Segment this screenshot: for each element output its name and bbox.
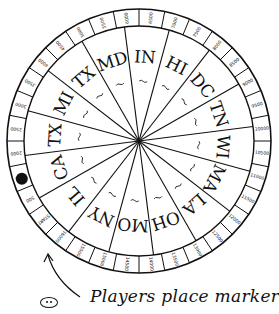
tilde-mark	[80, 156, 84, 164]
rim-value: 9000	[242, 78, 255, 88]
rim-value: 14500	[124, 257, 130, 272]
rim-value: 5000	[76, 26, 86, 39]
tilde-mark	[162, 85, 170, 90]
arrow	[48, 255, 80, 297]
rim-divider	[88, 19, 95, 35]
tilde-mark	[193, 118, 197, 126]
rim-divider	[183, 19, 190, 35]
rim-value: 14000	[148, 257, 154, 272]
tilde-mark	[131, 199, 139, 202]
rim-divider	[252, 115, 269, 118]
rim-value: 7000	[171, 16, 179, 29]
sector-label: OH	[149, 207, 183, 235]
sector-label: IL	[62, 183, 89, 210]
sector-label: MI	[49, 88, 78, 119]
rim-divider	[252, 163, 269, 166]
tilde-mark	[154, 195, 162, 199]
rim-divider	[235, 68, 249, 77]
tilde-mark	[108, 192, 116, 197]
rim-value: 15000	[99, 252, 108, 267]
game-wheel: INHIDCTNWIMALAOHMONYILCATXMITXMDSTART500…	[0, 0, 279, 314]
rim-value: 7500	[192, 26, 202, 39]
token-icon	[40, 297, 58, 308]
rim-divider	[29, 68, 43, 77]
sector-label: LA	[178, 189, 209, 220]
rim-divider	[113, 12, 116, 29]
rim-value: 12500	[211, 229, 224, 243]
rim-value: 9500	[251, 101, 264, 109]
tilde-mark	[78, 133, 81, 141]
rim-divider	[29, 205, 43, 214]
sector-divider	[139, 126, 253, 141]
tilde-mark	[139, 80, 147, 83]
rim-divider	[66, 237, 75, 251]
rim-divider	[203, 31, 212, 45]
rim-divider	[66, 31, 75, 45]
rim-value: 10500	[255, 150, 270, 156]
sector-label: HI	[163, 52, 191, 80]
rim-divider	[46, 222, 58, 234]
sector-divider	[139, 141, 154, 255]
rim-value: 10000	[255, 125, 270, 131]
sector-label: MO	[117, 214, 150, 236]
rim-divider	[88, 247, 95, 263]
rim-value: 15500	[75, 243, 86, 258]
rim-value: 11000	[250, 172, 265, 181]
sector-label: CA	[45, 152, 72, 183]
sector-divider	[124, 27, 139, 141]
rim-divider	[235, 205, 249, 214]
tilde-mark	[175, 183, 182, 190]
sector-label: MD	[94, 47, 130, 76]
rim-value: 6500	[148, 12, 154, 24]
sector-label: WI	[212, 134, 234, 160]
rim-value: 13000	[192, 242, 203, 257]
rim-value: 8000	[212, 39, 223, 51]
rim-divider	[183, 247, 190, 263]
caption: Players place markers	[90, 286, 279, 306]
sector-label: IN	[133, 46, 156, 67]
sector-label: TN	[205, 99, 232, 130]
sector-label: TX	[68, 62, 99, 93]
rim-value: 4500	[55, 40, 66, 52]
rim-divider	[17, 185, 33, 192]
rim-divider	[161, 12, 164, 29]
rim-divider	[10, 163, 27, 166]
rim-value: 13500	[171, 252, 180, 267]
tilde-mark	[83, 110, 88, 118]
tilde-mark	[197, 141, 200, 149]
rim-value: 11500	[241, 193, 256, 204]
rim-value: 12000	[228, 213, 242, 226]
player-marker	[16, 173, 28, 185]
rim-divider	[46, 48, 58, 60]
sector-divider	[25, 141, 139, 156]
tilde-mark	[96, 92, 103, 99]
sector-label: MA	[199, 161, 230, 197]
rim-divider	[113, 254, 116, 271]
sector-label: TX	[44, 122, 66, 148]
rim-divider	[220, 222, 232, 234]
rim-value: 3500	[24, 78, 37, 88]
rim-divider	[10, 115, 27, 118]
rim-divider	[203, 237, 212, 251]
rim-value: 16000	[54, 230, 67, 244]
rim-value: START	[37, 213, 51, 226]
tilde-mark	[90, 177, 97, 184]
tilde-mark	[116, 82, 124, 86]
rim-value: 6000	[124, 12, 130, 24]
rim-value: 8500	[228, 57, 240, 68]
rim-divider	[245, 185, 261, 192]
rim-value: 2000	[10, 150, 22, 156]
rim-value: 4000	[37, 57, 49, 68]
rim-value: 5500	[99, 17, 107, 30]
rim-divider	[161, 254, 164, 271]
rim-divider	[17, 90, 33, 97]
rim-value: 500	[25, 195, 35, 204]
rim-value: 3000	[14, 101, 27, 109]
rim-divider	[245, 90, 261, 97]
rim-divider	[220, 48, 232, 60]
rim-value: 2500	[10, 126, 22, 132]
tilde-mark	[190, 164, 195, 172]
tilde-mark	[181, 98, 188, 105]
